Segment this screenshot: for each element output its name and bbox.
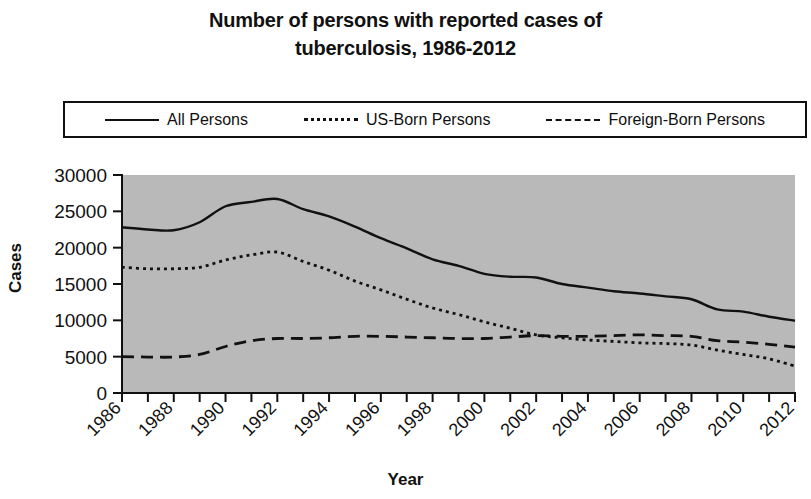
- svg-text:25000: 25000: [54, 201, 107, 222]
- svg-text:5000: 5000: [65, 347, 107, 368]
- svg-text:30000: 30000: [54, 165, 107, 186]
- svg-text:1988: 1988: [134, 398, 176, 440]
- y-axis-tick-labels: 300002500020000150001000050000: [54, 165, 107, 404]
- svg-text:2002: 2002: [497, 398, 539, 440]
- svg-text:1998: 1998: [393, 398, 435, 440]
- svg-text:2004: 2004: [548, 398, 590, 440]
- x-axis-tick-labels: 1986198819901992199419961998200020022004…: [82, 398, 797, 440]
- svg-text:1996: 1996: [341, 398, 383, 440]
- svg-text:10000: 10000: [54, 310, 107, 331]
- chart-plot-area: 300002500020000150001000050000 198619881…: [0, 0, 811, 499]
- y-axis-title: Cases: [6, 228, 26, 308]
- svg-text:2008: 2008: [652, 398, 694, 440]
- svg-text:2000: 2000: [445, 398, 487, 440]
- svg-text:1994: 1994: [289, 398, 331, 440]
- svg-text:1992: 1992: [238, 398, 280, 440]
- chart-svg: 300002500020000150001000050000 198619881…: [0, 0, 811, 499]
- svg-text:2012: 2012: [755, 398, 797, 440]
- svg-text:1986: 1986: [82, 398, 124, 440]
- svg-text:15000: 15000: [54, 274, 107, 295]
- x-axis-title: Year: [0, 470, 811, 490]
- svg-text:2006: 2006: [600, 398, 642, 440]
- svg-text:20000: 20000: [54, 238, 107, 259]
- svg-text:2010: 2010: [704, 398, 746, 440]
- svg-text:0: 0: [96, 383, 107, 404]
- svg-text:1990: 1990: [186, 398, 228, 440]
